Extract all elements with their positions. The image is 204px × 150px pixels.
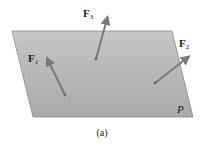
f2-origin-point: [154, 82, 157, 85]
f3-origin-point: [95, 58, 98, 61]
f1-origin-point: [64, 94, 67, 97]
f2-label: F2: [179, 37, 190, 51]
figure-caption: (a): [96, 127, 107, 139]
force-diagram: F1 F3 F2 P (a): [0, 0, 204, 150]
plane-label: P: [176, 103, 184, 115]
f3-label: F3: [83, 7, 94, 21]
